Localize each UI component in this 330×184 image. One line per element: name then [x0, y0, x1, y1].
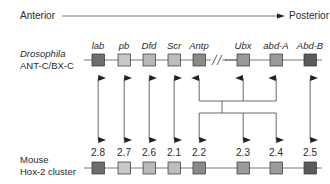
homology-diagram [0, 0, 330, 184]
gene-box-lab [92, 54, 105, 66]
gene-box-dfd [143, 54, 156, 66]
gene-box-scr [168, 54, 181, 66]
hox-box-2-5 [304, 162, 317, 174]
mouse-gene-boxes [92, 162, 317, 174]
axis-arrow [62, 14, 285, 19]
gene-box-antp [193, 54, 206, 66]
hox-box-2-7 [118, 162, 131, 174]
hox-box-2-3 [237, 162, 250, 174]
hox-box-2-8 [92, 162, 105, 174]
gene-box-abd-b [304, 54, 317, 66]
hox-box-2-4 [270, 162, 283, 174]
drosophila-gene-boxes [92, 54, 317, 66]
gene-box-ubx [237, 54, 250, 66]
hox-box-2-6 [143, 162, 156, 174]
grouped-homology-bracket [199, 78, 276, 140]
direct-homology-arrows [98, 78, 310, 140]
hox-box-2-1 [168, 162, 181, 174]
gene-box-abd-a [270, 54, 283, 66]
hox-box-2-2 [193, 162, 206, 174]
gene-box-pb [118, 54, 131, 66]
